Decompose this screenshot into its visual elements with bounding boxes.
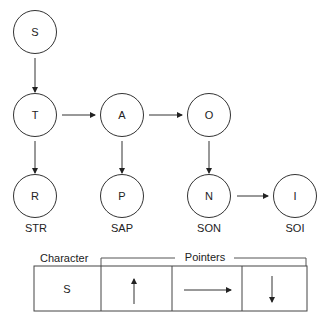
node-label-o: O <box>205 109 214 121</box>
node-label-r: R <box>31 190 39 202</box>
node-label-p: P <box>118 190 125 202</box>
trie-diagram: S T A O R P N I STR SAP SON SOI Characte… <box>0 0 326 323</box>
node-label-i: I <box>293 190 296 202</box>
word-label-son: SON <box>197 222 221 234</box>
character-value: S <box>63 283 70 295</box>
word-label-soi: SOI <box>286 222 305 234</box>
word-label-str: STR <box>25 222 47 234</box>
node-record-table <box>34 266 307 311</box>
pointers-header: Pointers <box>185 251 226 263</box>
node-label-s: S <box>31 26 38 38</box>
node-label-n: N <box>205 190 213 202</box>
node-label-t: T <box>32 109 39 121</box>
word-label-sap: SAP <box>111 222 133 234</box>
node-label-a: A <box>118 109 126 121</box>
character-header: Character <box>40 252 89 264</box>
